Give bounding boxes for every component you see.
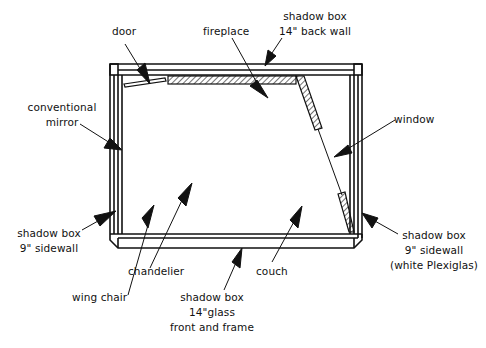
fireplace-shape — [168, 76, 296, 84]
label-conventional-mirror: conventional mirror — [26, 100, 98, 130]
arrow-icon — [232, 248, 242, 268]
label-wing-chair: wing chair — [72, 290, 127, 305]
arrow-icon — [104, 138, 122, 150]
arrow-icon — [94, 211, 116, 226]
arrow-icon — [362, 213, 378, 228]
label-fireplace: fireplace — [203, 24, 249, 39]
arrow-icon — [142, 205, 154, 228]
label-door: door — [112, 24, 136, 39]
label-chandelier: chandelier — [128, 264, 184, 279]
arrow-icon — [178, 183, 192, 206]
label-back-wall: shadow box 14" back wall — [275, 9, 355, 39]
label-couch: couch — [256, 264, 288, 279]
label-window: window — [394, 112, 434, 127]
label-right-sidewall: shadow box 9" sidewall (white Plexiglas) — [386, 228, 482, 273]
label-front-glass: shadow box 14"glass front and frame — [162, 290, 262, 335]
label-left-sidewall: shadow box 9" sidewall — [14, 226, 84, 256]
